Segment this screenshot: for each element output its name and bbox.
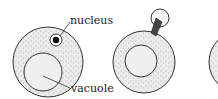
cell-diagram: nucleus vacuole <box>0 0 218 99</box>
cell-2 <box>113 9 175 93</box>
nucleus-label: nucleus <box>70 14 113 27</box>
vacuole-2 <box>125 45 157 77</box>
cell-3 <box>209 31 218 93</box>
vacuole-label: vacuole <box>70 82 114 95</box>
vacuole <box>24 53 62 91</box>
cell-1: nucleus vacuole <box>13 14 114 97</box>
